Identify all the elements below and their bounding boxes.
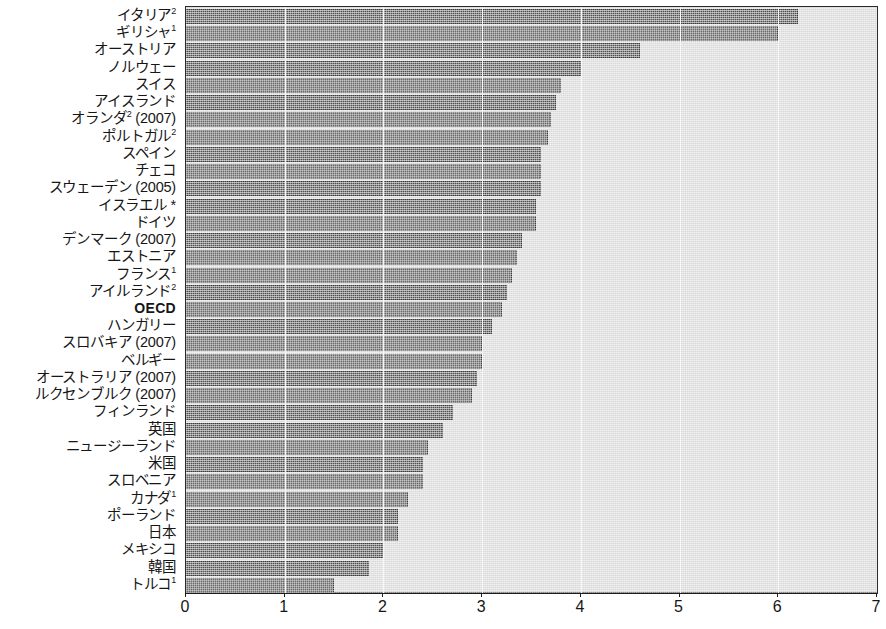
category-label: トルコ1 (130, 575, 176, 595)
gridline-5 (680, 7, 681, 593)
bar (186, 405, 453, 420)
x-tick-label: 5 (659, 598, 699, 616)
gridline-6 (778, 7, 779, 593)
horizontal-bar-chart: イタリア2ギリシャ1オーストリアノルウェースイスアイスランドオランダ2 (200… (0, 0, 886, 629)
bar (186, 268, 512, 283)
gridline-4 (581, 7, 582, 593)
bar (186, 181, 541, 196)
bar (186, 285, 507, 300)
bar (186, 233, 522, 248)
bar (186, 388, 472, 403)
x-tick-label: 2 (362, 598, 402, 616)
gridline-2 (383, 7, 384, 593)
bar (186, 354, 482, 369)
bar (186, 457, 423, 472)
bar (186, 164, 541, 179)
bar (186, 199, 536, 214)
bar (186, 371, 477, 386)
bar (186, 130, 548, 145)
bar (186, 147, 541, 162)
bar (186, 216, 536, 231)
category-axis-labels: イタリア2ギリシャ1オーストリアノルウェースイスアイスランドオランダ2 (200… (0, 6, 180, 592)
bar (186, 95, 556, 110)
gridline-3 (482, 7, 483, 593)
bar (186, 440, 428, 455)
gridline-1 (285, 7, 286, 593)
bar (186, 319, 492, 334)
bar (186, 78, 561, 93)
bar (186, 112, 551, 127)
x-tick-label: 4 (560, 598, 600, 616)
bar (186, 474, 423, 489)
bar (186, 423, 443, 438)
plot-area (185, 6, 878, 594)
x-tick-label: 0 (165, 598, 205, 616)
bar (186, 561, 369, 576)
x-tick-label: 7 (856, 598, 886, 616)
bar (186, 492, 408, 507)
bar (186, 336, 482, 351)
bar (186, 43, 640, 58)
x-tick-label: 1 (264, 598, 304, 616)
bar (186, 509, 398, 524)
bar-row (186, 576, 877, 594)
bar (186, 526, 398, 541)
x-tick-label: 3 (461, 598, 501, 616)
bar (186, 578, 334, 593)
bar (186, 9, 798, 24)
x-tick-label: 6 (757, 598, 797, 616)
bar (186, 250, 517, 265)
bar (186, 302, 502, 317)
